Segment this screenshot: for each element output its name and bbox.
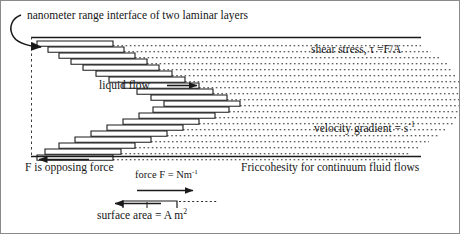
laminar-layer-slab [71,59,147,64]
laminar-layer-slab [59,53,135,58]
shear-stress-label: shear stress, τ =F/A [311,44,401,56]
velocity-gradient-exponent: -1 [408,120,415,129]
laminar-layer-slab [153,107,229,112]
laminar-layer-slab [48,47,124,52]
velocity-gradient-label: velocity gradient = s-1 [314,123,415,135]
laminar-layer [45,149,409,154]
force-text: force F = Nm [135,169,192,180]
opposing-force-label: F is opposing force [25,162,113,174]
surface-area-bracket [123,201,177,208]
surface-area-exponent: 2 [183,207,187,216]
laminar-layer-slab [75,137,151,142]
laminar-layer-slab [37,41,113,46]
laminar-layer-slab [164,101,240,106]
force-exponent: -1 [192,168,198,176]
laminar-layer [71,59,447,64]
title-label: nanometer range interface of two laminar… [27,10,248,22]
laminar-layer-slab [83,65,159,70]
laminar-layer-slab [107,125,183,130]
laminar-layer [75,137,429,142]
laminar-layer [96,71,457,76]
laminar-layer [83,65,453,70]
laminar-flow-diagram: nanometer range interface of two laminar… [0,0,460,234]
laminar-layer [164,101,459,106]
laminar-layer [151,95,459,100]
laminar-layer-slab [91,131,167,136]
laminar-layer [137,89,459,94]
laminar-layer-slab [45,149,121,154]
diagram-canvas [1,1,460,234]
laminar-layer [37,155,399,160]
laminar-layer-slab [59,143,135,148]
laminar-layer-slab [139,113,215,118]
laminar-layer [59,143,419,148]
laminar-layer-stack [37,41,459,160]
laminar-layer-slab [96,71,172,76]
laminar-layer [109,77,459,82]
surface-area-label: surface area = A m2 [97,210,187,222]
laminar-layer-slab [151,95,227,100]
force-label: force F = Nm-1 [135,170,198,181]
friccohesity-label: Friccohesity for continuum fluid flows [241,162,419,174]
laminar-layer [153,107,459,112]
laminar-layer [139,113,457,118]
surface-area-text: surface area = A m [97,209,183,221]
velocity-gradient-text: velocity gradient = s [314,122,408,134]
liquid-flow-label: liquid flow [99,80,150,92]
laminar-layer-slab [123,119,199,124]
